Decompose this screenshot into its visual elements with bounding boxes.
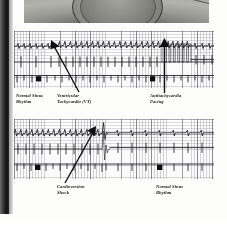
ecg-strip-vt-atp bbox=[14, 31, 214, 88]
scan-edge-shadow bbox=[0, 0, 9, 214]
scan-bottom-fade bbox=[0, 214, 227, 230]
caption-antitachycardia-pacing: Antitachycardia Pacing bbox=[150, 93, 181, 104]
caption-cardioversion-shock: Cardioversion Shock bbox=[57, 184, 85, 195]
scan-edge-gradient bbox=[9, 0, 13, 214]
implantable-cardioverter-defibrillator-photo bbox=[24, 0, 209, 23]
ecg-strip-cardioversion-nsr bbox=[14, 119, 214, 179]
device-inner-ellipse bbox=[80, 0, 156, 23]
caption-normal-sinus-rhythm-top: Normal Sinus Rhythm bbox=[16, 93, 43, 104]
caption-ventricular-tachycardia: Ventricular Tachycardia (VT) bbox=[57, 93, 91, 104]
ecg-paper-wash bbox=[14, 119, 214, 179]
caption-normal-sinus-rhythm-bottom: Normal Sinus Rhythm bbox=[156, 184, 183, 195]
figure-page: Normal Sinus Rhythm Ventricular Tachycar… bbox=[0, 0, 227, 230]
ecg-paper-wash bbox=[14, 31, 214, 88]
